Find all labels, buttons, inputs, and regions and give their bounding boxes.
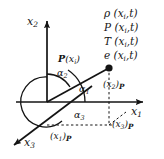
- projection-x2-label: (x2)P: [103, 80, 124, 90]
- alpha-3-label: α3: [74, 110, 85, 121]
- pressure-field-args-close: ,t): [127, 21, 139, 33]
- projection-x2-subscript-p: P: [119, 82, 124, 91]
- energy-field-args-open: (x: [114, 49, 124, 61]
- density-field-args-close: ,t): [126, 7, 138, 19]
- x3-axis-label: x3: [24, 137, 35, 150]
- x1-axis-label: x1: [131, 106, 142, 119]
- density-field-label: ρ (xi,t): [104, 8, 138, 20]
- alpha-1-sub: 1: [85, 88, 89, 96]
- coordinate-system-figure: x2 x1 x3 P(xi) α2 α1 α3 (x2)P (x3)P (x1)…: [0, 0, 164, 159]
- projection-x1-subscript-p: P: [66, 134, 71, 143]
- point-P-args-close: ): [76, 53, 80, 64]
- energy-field-label: e (xi,t): [104, 50, 138, 62]
- point-P-marker: [105, 64, 112, 71]
- point-P-args-open: (x: [65, 53, 74, 64]
- density-field-symbol: ρ: [104, 7, 110, 19]
- energy-field-args-close: ,t): [126, 49, 138, 61]
- x2-axis-label: x2: [27, 16, 38, 29]
- alpha-1-label: α1: [79, 84, 90, 95]
- projection-x1-label: (x1)P: [50, 132, 71, 142]
- alpha-2-sub: 2: [63, 72, 67, 80]
- projection-x2-open: (x: [103, 79, 112, 89]
- energy-field-symbol: e: [104, 49, 110, 61]
- point-P-label: P(xi): [58, 54, 80, 65]
- projection-x1-open: (x: [50, 131, 59, 141]
- alpha-2-label: α2: [57, 68, 68, 79]
- pressure-field-args-open: (x: [114, 21, 124, 33]
- density-field-args-open: (x: [114, 7, 124, 19]
- field-variable-list: ρ (xi,t) P (xi,t) T (xi,t) e (xi,t): [104, 8, 138, 63]
- projection-x3-open: (x: [112, 119, 121, 129]
- x1-axis-label-sub: 1: [137, 110, 142, 119]
- projection-x3-label: (x3)P: [112, 120, 133, 130]
- temperature-field-args-open: (x: [114, 35, 124, 47]
- temperature-field-symbol: T: [104, 35, 111, 47]
- pressure-field-label: P (xi,t): [104, 22, 138, 34]
- projection-x3-subscript-p: P: [128, 122, 133, 131]
- alpha-3-sub: 3: [80, 114, 84, 122]
- temperature-field-label: T (xi,t): [104, 36, 138, 48]
- temperature-field-args-close: ,t): [127, 35, 139, 47]
- pressure-field-symbol: P: [104, 21, 111, 33]
- x3-axis-label-sub: 3: [30, 141, 35, 150]
- x2-axis-label-sub: 2: [33, 20, 38, 29]
